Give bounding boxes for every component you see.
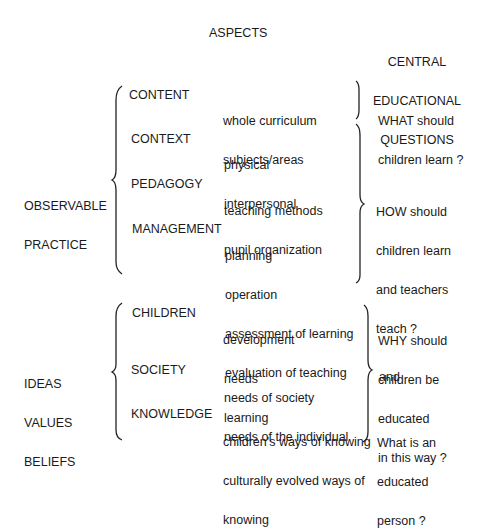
aspect-item: children's ways of knowing xyxy=(223,436,371,449)
aspect-item: operation xyxy=(225,289,354,302)
aspect-pedagogy: PEDAGOGY xyxy=(131,178,203,191)
aspect-knowledge: KNOWLEDGE xyxy=(131,408,212,421)
group-label-line: PRACTICE xyxy=(24,239,107,252)
aspect-item: development xyxy=(223,334,295,347)
group-label-line: IDEAS xyxy=(24,378,75,391)
question-line: children learn ? xyxy=(378,154,463,167)
aspect-item: physical xyxy=(224,159,296,172)
question-educated-person: What is an educated person ? xyxy=(377,411,436,532)
question-line: HOW should xyxy=(376,206,451,219)
aspect-item: culturally evolved ways of xyxy=(223,475,371,488)
aspect-children: CHILDREN xyxy=(132,307,196,320)
question-line: What is an xyxy=(377,437,436,450)
aspect-knowledge-items: children's ways of knowing culturally ev… xyxy=(223,410,371,532)
question-line: children learn xyxy=(376,245,451,258)
group-label-ideas-values-beliefs: IDEAS VALUES BELIEFS xyxy=(24,352,75,482)
aspect-item: whole curriculum xyxy=(223,115,317,128)
aspect-content: CONTENT xyxy=(129,89,189,102)
question-and: and xyxy=(379,371,400,384)
group-label-line: BELIEFS xyxy=(24,456,75,469)
question-what: WHAT should children learn ? xyxy=(378,89,463,180)
aspect-society: SOCIETY xyxy=(131,364,186,377)
question-line: person ? xyxy=(377,515,436,528)
group-label-line: OBSERVABLE xyxy=(24,200,107,213)
aspect-management: MANAGEMENT xyxy=(132,223,222,236)
question-line: and teachers xyxy=(376,284,451,297)
group-label-line: VALUES xyxy=(24,417,75,430)
question-line: WHY should xyxy=(378,335,447,348)
aspect-item: teaching methods xyxy=(224,205,323,218)
aspect-item: planning xyxy=(225,250,354,263)
question-line: educated xyxy=(377,476,436,489)
group-label-observable-practice: OBSERVABLE PRACTICE xyxy=(24,174,107,265)
question-line: WHAT should xyxy=(378,115,463,128)
aspect-item: knowing xyxy=(223,514,371,527)
aspect-item: needs of society xyxy=(224,392,348,405)
aspect-context: CONTEXT xyxy=(131,133,191,146)
